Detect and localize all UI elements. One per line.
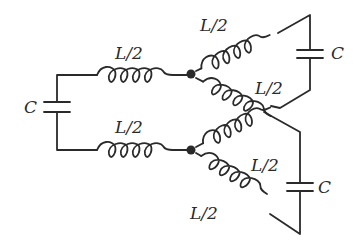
inductor-upper-right-top — [192, 28, 272, 77]
capacitor-left-label: C — [24, 97, 37, 117]
wire-left-bottom — [57, 112, 97, 150]
junction-dot-lower — [187, 146, 196, 155]
capacitor-lower-right — [287, 183, 313, 191]
inductor-top-left — [97, 67, 173, 82]
junction-dot-upper — [187, 70, 196, 79]
capacitor-lower-right-label: C — [318, 177, 331, 197]
upper-right-loop: C L/2 L/2 — [192, 15, 344, 122]
inductor-bottom-left-label: L/2 — [114, 117, 143, 137]
wire-lower-right-bottom — [270, 191, 300, 234]
inductor-lower-right-top — [192, 100, 273, 153]
lower-right-loop: C L/2 L/2 — [189, 100, 331, 234]
inductor-upper-right-top-label: L/2 — [199, 15, 228, 35]
capacitor-upper-right — [297, 50, 323, 58]
wire-upper-right-top — [278, 15, 310, 50]
circuit-diagram: C L/2 L/2 C L/2 L/2 — [0, 0, 364, 251]
wire-left-top — [57, 75, 97, 102]
capacitor-upper-right-label: C — [331, 43, 344, 63]
inductor-lower-right-top-label: L/2 — [250, 155, 279, 175]
inductor-upper-right-bottom-label: L/2 — [254, 78, 283, 98]
inductor-lower-right-bottom-label: L/2 — [189, 203, 218, 223]
left-loop: C L/2 L/2 — [24, 43, 187, 157]
inductor-bottom-left — [97, 142, 173, 157]
capacitor-left — [44, 102, 70, 112]
inductor-top-left-label: L/2 — [114, 43, 143, 63]
